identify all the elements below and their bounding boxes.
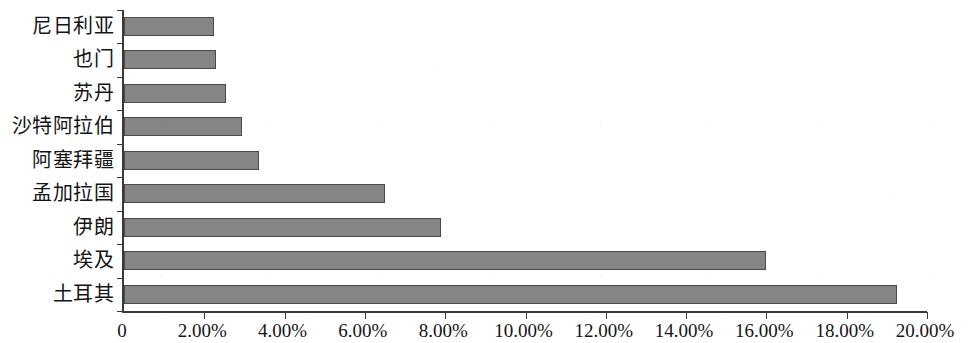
y-axis-tick — [117, 77, 124, 78]
bar — [124, 184, 385, 203]
x-axis-tick-label: 14.00% — [655, 318, 714, 343]
category-label: 苏丹 — [73, 77, 114, 110]
category-label: 孟加拉国 — [32, 177, 114, 210]
bar — [124, 117, 242, 136]
category-axis: 尼日利亚也门苏丹沙特阿拉伯阿塞拜疆孟加拉国伊朗埃及土耳其 — [0, 10, 118, 311]
y-axis-tick — [117, 244, 124, 245]
x-axis-tick-label: 10.00% — [494, 318, 553, 343]
x-axis-tick-label: 6.00% — [338, 318, 387, 343]
category-label: 尼日利亚 — [32, 10, 114, 43]
x-axis-tick-label: 12.00% — [575, 318, 634, 343]
x-axis-tick-label: 0 — [117, 318, 127, 343]
x-axis-tick-label: 8.00% — [419, 318, 468, 343]
bar — [124, 151, 259, 170]
y-axis-tick — [117, 311, 124, 312]
bar-row — [124, 177, 927, 210]
bar-row — [124, 244, 927, 277]
bar-row — [124, 77, 927, 110]
bar-row — [124, 211, 927, 244]
x-axis-tick-label: 20.00% — [896, 318, 955, 343]
x-axis-tick-label: 2.00% — [178, 318, 227, 343]
x-axis-tick-label: 16.00% — [735, 318, 794, 343]
bar — [124, 285, 897, 304]
y-axis-tick — [117, 144, 124, 145]
bar — [124, 251, 766, 270]
category-label: 伊朗 — [73, 211, 114, 244]
bar-row — [124, 110, 927, 143]
category-label: 沙特阿拉伯 — [12, 110, 115, 143]
y-axis-tick — [117, 10, 124, 11]
bar — [124, 218, 441, 237]
plot-area — [122, 10, 927, 313]
bar-chart: 尼日利亚也门苏丹沙特阿拉伯阿塞拜疆孟加拉国伊朗埃及土耳其 02.00%4.00%… — [0, 0, 969, 343]
bar-row — [124, 278, 927, 311]
category-label: 埃及 — [73, 244, 114, 277]
x-axis-tick-label: 18.00% — [815, 318, 874, 343]
y-axis-tick — [117, 177, 124, 178]
y-axis-tick — [117, 43, 124, 44]
bar-row — [124, 43, 927, 76]
category-label: 也门 — [73, 43, 114, 76]
category-label: 阿塞拜疆 — [32, 144, 114, 177]
y-axis-tick — [117, 211, 124, 212]
bar-row — [124, 10, 927, 43]
y-axis-tick — [117, 278, 124, 279]
y-axis-tick — [117, 110, 124, 111]
x-axis-tick-label: 4.00% — [258, 318, 307, 343]
category-label: 土耳其 — [53, 278, 115, 311]
x-axis-tick-labels: 02.00%4.00%6.00%8.00%10.00%12.00%14.00%1… — [122, 318, 925, 343]
bar — [124, 17, 214, 36]
bar-row — [124, 144, 927, 177]
bar — [124, 84, 226, 103]
bar — [124, 50, 216, 69]
